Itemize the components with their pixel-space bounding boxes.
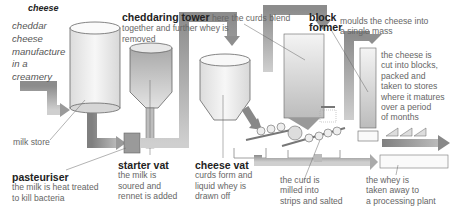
whey-label: the whey is taken away to a processing p… [366,175,436,206]
pasteuriser-unit [124,133,140,153]
milk-store-label: milk store [13,137,50,147]
diagram-intro: cheddar cheese manufacture in a creamery [12,20,65,84]
cheese-vat-label: cheese vat curds form and liquid whey is… [195,160,252,202]
pipe-to-pasteuriser [92,113,126,150]
cheddaring-tower-label: cheddaring tower here the curds blend to… [122,12,290,44]
blocks-label: the cheese is cut into blocks, packed an… [381,50,445,123]
starter-vat-heading: starter vat [118,160,177,170]
diagram-title: cheese [28,3,59,13]
pasteuriser-heading: pasteuriser [12,172,98,182]
cheddaring-tower-inline: here the curds blend [212,13,290,23]
pasteuriser-label: pasteuriser the milk is heat treated to … [12,172,98,203]
cheddaring-tower-heading: cheddaring tower [122,11,210,23]
starter-vat-label: starter vat the milk is soured and renne… [118,160,177,202]
curd-milled-label: the curd is milled into strips and salte… [280,175,343,206]
inlet-pipe [20,86,70,117]
block-former-heading: block former [309,12,342,32]
blocks-conveyor [382,128,450,151]
cheese-vat [200,54,250,158]
block-former-label: block former [309,12,342,32]
block-former [330,28,382,141]
cheese-vat-description: curds form and liquid whey is drawn off [195,170,252,201]
block-former-description: moulds the cheese into a single mass [340,16,428,37]
cheese-vat-heading: cheese vat [195,160,252,170]
starter-vat-description: the milk is soured and rennet is added [118,170,177,201]
pasteuriser-description: the milk is heat treated to kill bacteri… [12,182,98,203]
cheddaring-tower-description: together and further whey is removed [122,23,290,44]
